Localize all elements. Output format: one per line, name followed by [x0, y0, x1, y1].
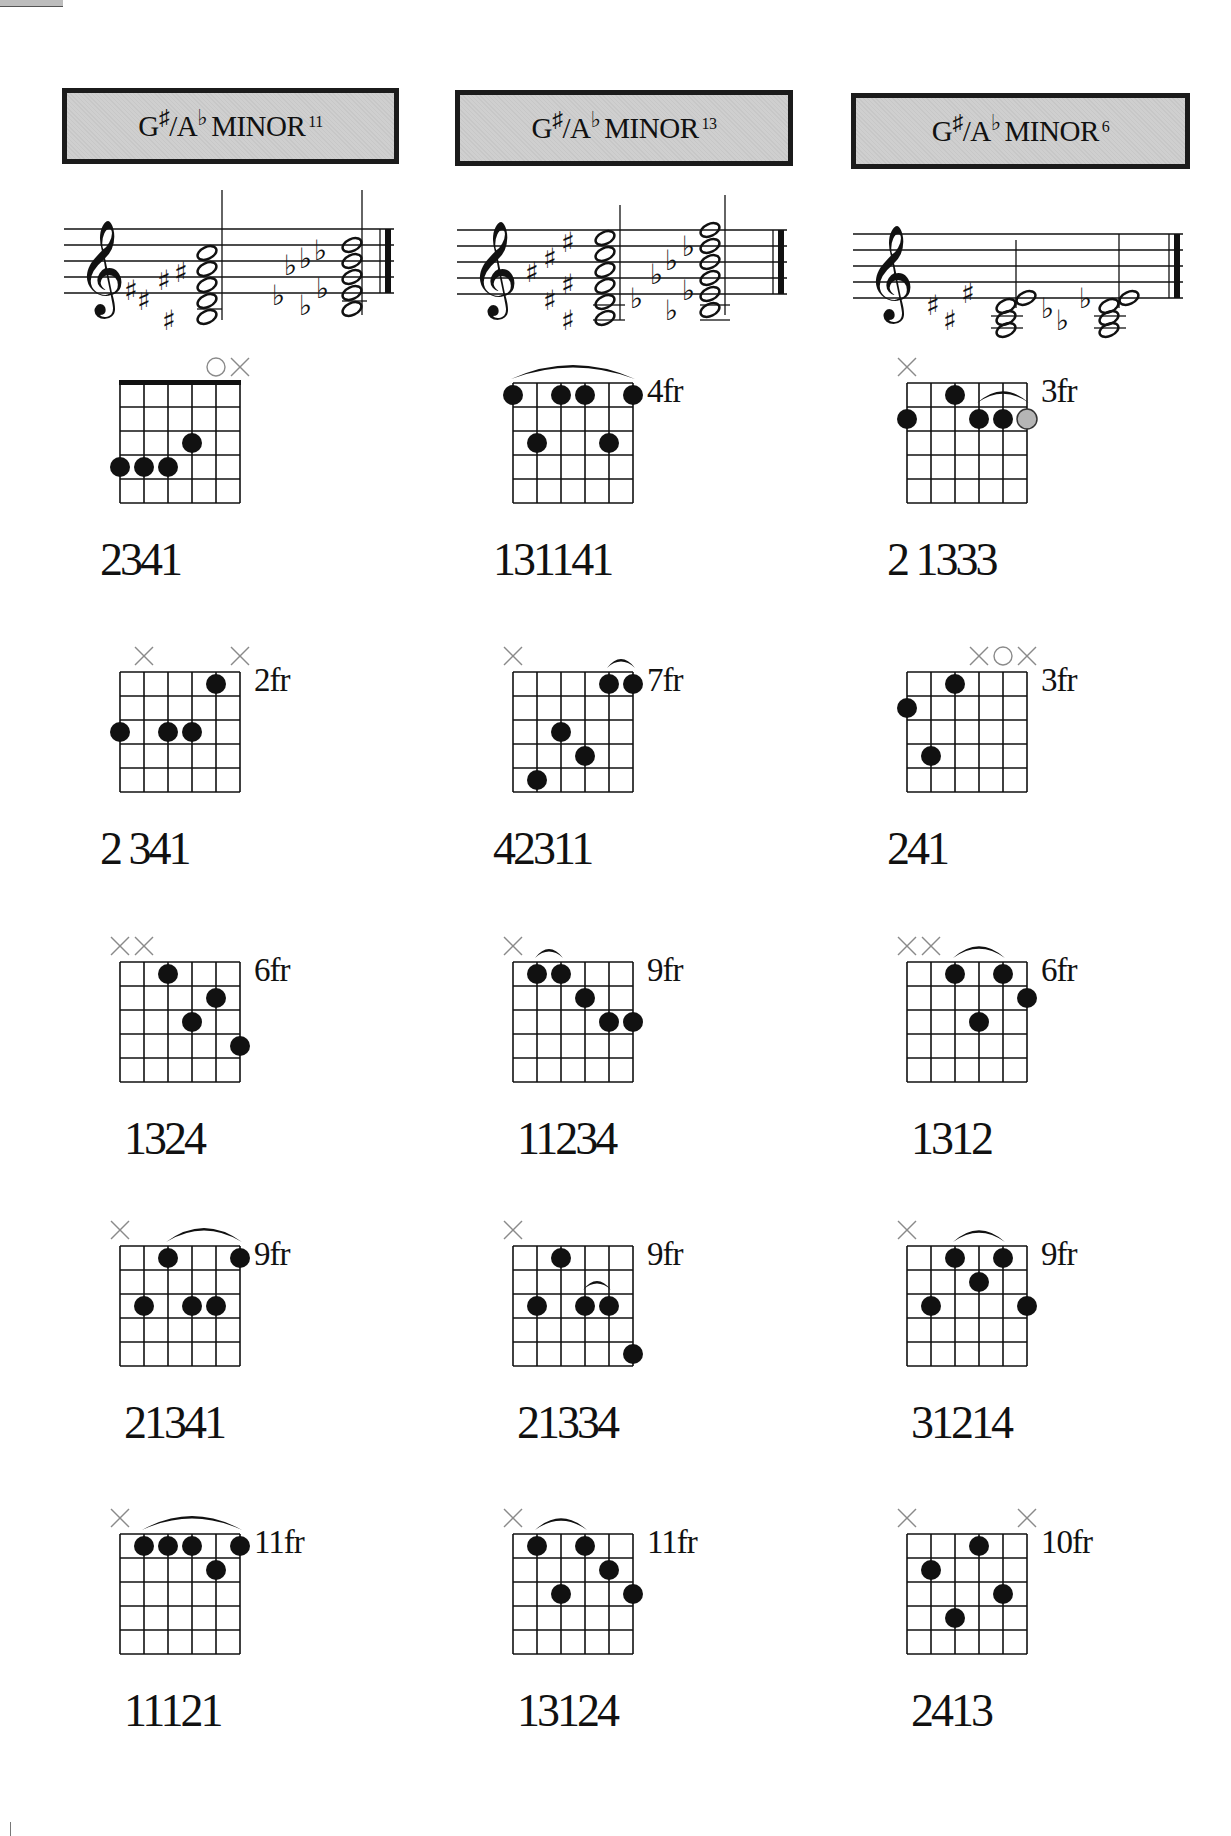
finger-dot-icon [158, 1536, 178, 1556]
muted-string-icon [1018, 647, 1036, 665]
finger-dot-icon [969, 1012, 989, 1032]
svg-text:♯: ♯ [561, 268, 575, 301]
finger-dot-icon [551, 385, 571, 405]
finger-dot-icon [206, 1296, 226, 1316]
fret-position-label: 11fr [254, 1524, 304, 1561]
svg-text:♯: ♯ [543, 284, 557, 317]
flat-symbol: ♭ [197, 105, 207, 131]
fingering-label: 241 [887, 822, 947, 875]
svg-text:♯: ♯ [943, 304, 957, 337]
finger-dot-icon [182, 722, 202, 742]
chord-diagram: 11fr11121 [100, 1494, 280, 1754]
fret-position-label: 3fr [1041, 373, 1076, 410]
finger-dot-icon [993, 964, 1013, 984]
header-extension: 13 [702, 115, 717, 133]
svg-text:♯: ♯ [162, 304, 176, 337]
finger-dot-icon [969, 1272, 989, 1292]
fret-position-label: 4fr [647, 373, 682, 410]
finger-dot-icon [182, 1296, 202, 1316]
svg-text:♭: ♭ [272, 279, 285, 312]
fingering-label: 21341 [124, 1396, 224, 1449]
muted-string-icon [135, 647, 153, 665]
barre-arc-icon [166, 1228, 242, 1242]
finger-dot-icon [527, 433, 547, 453]
svg-text:♭: ♭ [630, 282, 643, 315]
muted-string-icon [504, 937, 522, 955]
finger-dot-icon [527, 1536, 547, 1556]
finger-dot-icon [158, 1248, 178, 1268]
finger-dot-icon [182, 433, 202, 453]
open-string-icon [207, 358, 225, 376]
muted-string-icon [504, 1509, 522, 1527]
finger-dot-icon [599, 1012, 619, 1032]
finger-dot-icon [110, 457, 130, 477]
finger-dot-icon [969, 1536, 989, 1556]
finger-dot-icon [182, 1012, 202, 1032]
finger-dot-icon [623, 1344, 643, 1364]
sharp-symbol: ♯ [552, 107, 563, 133]
muted-string-icon [111, 937, 129, 955]
chord-diagram: 9fr31214 [887, 1206, 1067, 1466]
barre-arc-icon [535, 1518, 587, 1530]
barre-arc-icon [607, 659, 635, 668]
sharp-symbol: ♯ [159, 105, 170, 131]
finger-dot-icon [921, 746, 941, 766]
muted-string-icon [1018, 1509, 1036, 1527]
muted-string-icon [504, 647, 522, 665]
svg-text:♭: ♭ [665, 244, 678, 277]
finger-dot-icon [945, 1608, 965, 1628]
finger-dot-icon [182, 1536, 202, 1556]
header-root: G [531, 112, 551, 145]
finger-dot-icon [551, 722, 571, 742]
svg-text:♯: ♯ [926, 289, 940, 322]
fingering-label: 2341 [100, 533, 180, 586]
svg-text:♯: ♯ [543, 242, 557, 275]
fingering-label: 31214 [911, 1396, 1011, 1449]
finger-dot-icon [897, 698, 917, 718]
sharp-symbol: ♯ [952, 110, 963, 136]
finger-dot-icon [503, 385, 523, 405]
svg-text:♯: ♯ [525, 256, 539, 289]
header-root: G [138, 110, 158, 143]
muted-string-icon [898, 1221, 916, 1239]
muted-string-icon [970, 647, 988, 665]
finger-dot-icon [551, 964, 571, 984]
optional-finger-dot-icon [1017, 409, 1037, 429]
staff-notation-minor11: 𝄞 ♯ ♯ ♯ ♯ ♯ ♭ ♭ ♭ ♭ ♭ ♭ [62, 190, 402, 340]
muted-string-icon [898, 1509, 916, 1527]
finger-dot-icon [897, 409, 917, 429]
svg-text:♯: ♯ [561, 226, 575, 259]
header-quality: MINOR [604, 112, 698, 145]
svg-text:♭: ♭ [284, 249, 297, 282]
barre-arc-icon [511, 365, 635, 379]
finger-dot-icon [623, 1584, 643, 1604]
svg-text:♭: ♭ [1056, 304, 1069, 337]
finger-dot-icon [575, 746, 595, 766]
treble-clef-icon: 𝄞 [470, 220, 518, 320]
chord-diagram: 6fr1312 [887, 922, 1067, 1182]
fingering-label: 13124 [517, 1684, 617, 1737]
svg-text:♯: ♯ [174, 256, 188, 289]
finger-dot-icon [623, 385, 643, 405]
muted-string-icon [922, 937, 940, 955]
chord-diagram: 4fr131141 [493, 343, 673, 603]
svg-text:♭: ♭ [1041, 292, 1054, 325]
header-root: G [932, 115, 952, 148]
svg-text:♭: ♭ [316, 272, 329, 305]
chord-diagram: 7fr42311 [493, 632, 673, 892]
muted-string-icon [231, 358, 249, 376]
fret-position-label: 2fr [254, 662, 289, 699]
svg-text:♯: ♯ [561, 304, 575, 337]
chord-diagram: 9fr21341 [100, 1206, 280, 1466]
finger-dot-icon [527, 964, 547, 984]
muted-string-icon [135, 937, 153, 955]
chord-diagram: 9fr11234 [493, 922, 673, 1182]
finger-dot-icon [945, 674, 965, 694]
fingering-label: 11234 [517, 1112, 615, 1165]
header-slash: /A [169, 110, 197, 143]
fingering-label: 131141 [493, 533, 611, 586]
fret-position-label: 6fr [1041, 952, 1076, 989]
finger-dot-icon [993, 1248, 1013, 1268]
fret-position-label: 9fr [647, 952, 682, 989]
finger-dot-icon [599, 433, 619, 453]
